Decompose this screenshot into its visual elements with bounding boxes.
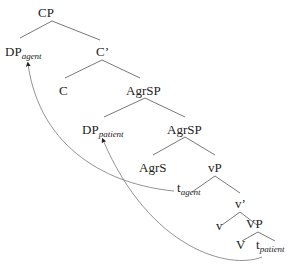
node-little-v: v [216, 218, 223, 233]
node-agrsp-1: AgrSP [126, 83, 161, 98]
syntax-tree: CP DPagent C’ C AgrSP DPpatient AgrSP Ag… [0, 0, 299, 264]
node-c-bar: C’ [96, 44, 109, 59]
node-agrsp-2: AgrSP [167, 122, 202, 137]
node-vp: VP [246, 216, 263, 231]
node-little-vp: vP [208, 160, 222, 175]
node-dp-patient: DPpatient [82, 122, 124, 139]
node-t-agent: tagent [177, 180, 201, 197]
node-dp-agent: DPagent [5, 44, 42, 61]
node-v-bar: v’ [235, 196, 246, 211]
node-t-patient: tpatient [256, 237, 285, 254]
node-verb: V [236, 237, 246, 252]
node-agrs: AgrS [139, 160, 166, 175]
node-c: C [59, 83, 68, 98]
node-cp: CP [38, 5, 54, 20]
